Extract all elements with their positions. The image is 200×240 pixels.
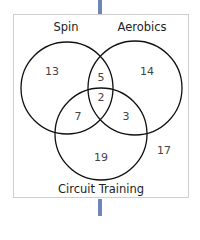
region-aerobics-only: 14 [140, 66, 154, 77]
region-spin-aerobics: 5 [98, 72, 105, 83]
set-label-circuit-training: Circuit Training [58, 184, 144, 196]
region-outside: 17 [157, 145, 171, 156]
set-label-aerobics: Aerobics [117, 22, 166, 34]
region-spin-circuit: 7 [75, 111, 82, 122]
region-aerobics-circuit: 3 [123, 111, 130, 122]
region-all-three: 2 [98, 92, 105, 103]
region-circuit-only: 19 [94, 152, 108, 163]
connector-line-bottom [98, 199, 102, 216]
region-spin-only: 13 [45, 66, 59, 77]
set-label-spin: Spin [53, 22, 78, 34]
